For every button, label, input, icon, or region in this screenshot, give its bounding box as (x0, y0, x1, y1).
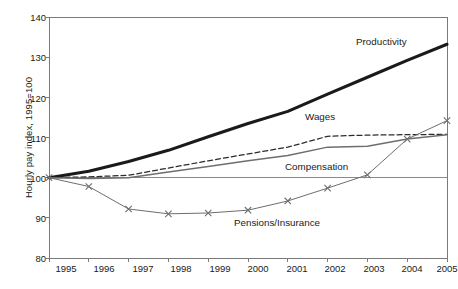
y-axis-tick-marks (45, 17, 49, 258)
series-productivity (49, 44, 447, 177)
series-label-compensation: Compensation (285, 161, 348, 172)
series-label-productivity: Productivity (356, 36, 407, 47)
data-point-marker (364, 172, 370, 178)
series-wages (49, 134, 447, 177)
series-label-pensions-insurance: Pensions/Insurance (234, 217, 320, 228)
series-lines (46, 44, 450, 217)
series-label-wages: Wages (305, 111, 335, 122)
data-point-marker (285, 198, 291, 204)
x-axis-tick-marks (49, 258, 447, 262)
series-path (49, 134, 447, 177)
data-point-marker (324, 185, 330, 191)
series-path (49, 44, 447, 177)
